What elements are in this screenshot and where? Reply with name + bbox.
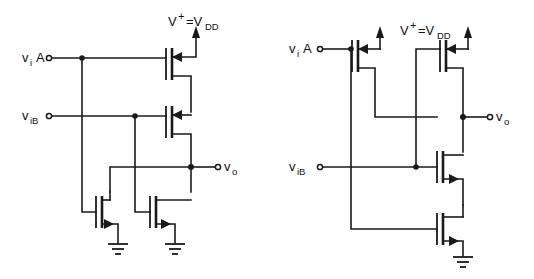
left-output-label-v: v (224, 159, 231, 174)
left-output: v o (110, 159, 237, 192)
left-vdd-label-v: V (168, 14, 177, 29)
left-pmos-2-drain-lead (172, 134, 191, 167)
left-nmos-b (150, 196, 191, 243)
left-input-a-label-sub: i (30, 57, 32, 68)
right-output-label-v: v (496, 109, 503, 124)
left-input-a-terminal[interactable] (46, 55, 51, 60)
right-pmos-b-vdd-arrow-icon (464, 26, 472, 38)
right-nmos-b (437, 151, 463, 205)
left-pmos-2-source-arrow-icon (172, 110, 182, 120)
right-pmos-b-gate-wire (416, 49, 440, 167)
right-nmos-a (437, 205, 463, 256)
left-output-label-sub: o (232, 166, 237, 177)
right-input-b-junction (413, 164, 419, 170)
right-vdd-label-eq: =V (418, 23, 435, 38)
left-input-b-label-v: v (22, 108, 29, 123)
right-pmos-a-source-arrow-icon (358, 44, 368, 54)
right-input-a-label-suffix: A (303, 41, 312, 56)
left-circuit-nand: V + =V DD v i A v iB (22, 10, 237, 254)
right-input-b: v iB (289, 159, 437, 177)
left-nmos-b-source-lead (156, 224, 175, 243)
left-input-a-label-v: v (22, 50, 29, 65)
right-input-a: v i A (289, 41, 437, 229)
right-nmos-a-source-arrow-icon (449, 236, 459, 246)
left-nmos-b-source-arrow-icon (161, 219, 171, 229)
left-input-a: v i A (22, 50, 166, 212)
right-pmos-b-source-arrow-icon (446, 44, 456, 54)
left-output-bus-wire (110, 167, 191, 192)
right-input-b-label-sub: iB (297, 166, 305, 177)
right-output-terminal[interactable] (487, 114, 492, 119)
right-output-label-sub: o (504, 116, 509, 127)
right-nmos-b-source-lead (443, 179, 463, 205)
right-pmos-a (352, 26, 437, 117)
left-input-a-label-suffix: A (36, 50, 45, 65)
left-vdd-label-plus: + (178, 10, 184, 22)
right-ground (453, 257, 473, 267)
right-pmos-a-vdd-arrow-icon (376, 26, 384, 38)
right-nmos-b-source-arrow-icon (449, 174, 459, 184)
left-pmos-2 (166, 106, 191, 167)
right-pmos-a-drain-lead (358, 68, 437, 117)
left-pmos-1-source-arrow-icon (172, 52, 182, 62)
right-input-a-branch-wire (351, 49, 437, 229)
left-input-b-terminal[interactable] (46, 113, 51, 118)
left-ground-2 (165, 244, 185, 254)
left-vdd-rail (175, 26, 200, 57)
left-input-b-label-sub: iB (30, 115, 38, 126)
left-vdd-label: V + =V DD (168, 10, 219, 32)
schematic-canvas: V + =V DD v i A v iB (0, 0, 534, 279)
right-vdd-label-plus: + (410, 19, 416, 31)
right-output: v o (460, 109, 509, 152)
left-pmos-1-drain-lead (172, 76, 191, 112)
right-circuit-nor: V + =V DD v i A (289, 19, 509, 267)
left-vdd-label-eq: =V (186, 14, 203, 29)
left-nmos-a-source-arrow-icon (104, 219, 114, 229)
right-input-b-label-v: v (289, 159, 296, 174)
left-input-b-branch-wire (135, 116, 150, 212)
left-input-b: v iB (22, 108, 166, 212)
left-vdd-label-sub: DD (205, 21, 219, 32)
right-vdd-label-sub: DD (437, 30, 451, 41)
right-pmos-b-drain-lead (446, 68, 463, 117)
right-vdd-label: V + =V DD (400, 19, 451, 41)
left-input-a-branch-wire (82, 58, 96, 212)
right-input-a-label-sub: i (297, 48, 299, 59)
left-nmos-a (96, 192, 118, 243)
left-ground-1 (108, 244, 128, 254)
left-output-terminal[interactable] (215, 164, 220, 169)
right-vdd-label-v: V (400, 23, 409, 38)
circuit-figure: V + =V DD v i A v iB (0, 0, 534, 279)
right-input-b-terminal[interactable] (317, 164, 322, 169)
right-input-a-label-v: v (289, 41, 296, 56)
right-input-a-terminal[interactable] (317, 46, 322, 51)
